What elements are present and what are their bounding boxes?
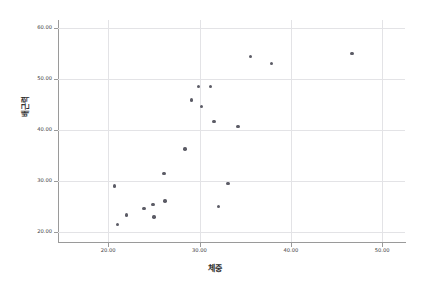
- x-axis-title: 체중: [0, 262, 429, 273]
- gridline-x-20.00: [108, 20, 109, 242]
- data-point: [209, 85, 212, 88]
- y-tick-label-text: 40.00: [37, 127, 52, 132]
- gridline-x-30.00: [200, 20, 201, 242]
- y-axis-title: 배근력: [19, 77, 30, 137]
- x-tick-label-text: 30.00: [180, 248, 220, 253]
- y-tick-mark: [54, 79, 58, 80]
- x-tick-label-text: 40.00: [271, 248, 311, 253]
- data-point: [190, 98, 193, 101]
- y-tick-label-text: 50.00: [37, 76, 52, 81]
- x-tick-label: 40.00: [271, 248, 311, 257]
- y-tick-mark: [54, 130, 58, 131]
- y-tick-label-text: 60.00: [37, 25, 52, 30]
- gridline-y-30.00: [58, 181, 405, 182]
- gridline-y-50.00: [58, 79, 405, 80]
- x-tick-mark: [108, 243, 109, 247]
- data-point: [217, 205, 220, 208]
- data-point: [162, 172, 165, 175]
- x-tick-mark: [291, 243, 292, 247]
- y-tick-label: 20.00: [0, 229, 52, 237]
- data-point: [236, 125, 239, 128]
- x-tick-label: 50.00: [362, 248, 402, 257]
- data-point: [249, 55, 252, 58]
- gridline-x-50.00: [382, 20, 383, 242]
- plot-area: [58, 20, 405, 242]
- data-point: [270, 62, 273, 65]
- x-tick-label-text: 20.00: [88, 248, 128, 253]
- y-tick-label-text: 30.00: [37, 178, 52, 183]
- gridline-x-40.00: [291, 20, 292, 242]
- y-tick-mark: [54, 232, 58, 233]
- y-tick-mark: [54, 28, 58, 29]
- x-tick-label: 30.00: [180, 248, 220, 257]
- x-axis-line: [58, 242, 406, 243]
- x-tick-label: 20.00: [88, 248, 128, 257]
- data-point: [183, 147, 186, 150]
- data-point: [152, 215, 155, 218]
- y-tick-label-text: 20.00: [37, 229, 52, 234]
- x-tick-mark: [200, 243, 201, 247]
- data-point: [226, 182, 229, 185]
- data-point: [200, 105, 203, 108]
- data-point: [350, 52, 353, 55]
- y-tick-label: 60.00: [0, 25, 52, 33]
- data-point: [113, 184, 116, 187]
- gridline-y-20.00: [58, 232, 405, 233]
- data-point: [212, 120, 215, 123]
- data-point: [116, 223, 119, 226]
- scatter-plot-figure: 20.0030.0040.0050.0060.00 20.0030.0040.0…: [0, 0, 429, 286]
- x-tick-label-text: 50.00: [362, 248, 402, 253]
- y-tick-mark: [54, 181, 58, 182]
- gridline-y-40.00: [58, 130, 405, 131]
- data-point: [142, 207, 145, 210]
- data-point: [125, 213, 128, 216]
- data-point: [163, 199, 166, 202]
- x-tick-mark: [382, 243, 383, 247]
- y-tick-label: 30.00: [0, 178, 52, 186]
- data-point: [151, 203, 154, 206]
- gridline-y-60.00: [58, 28, 405, 29]
